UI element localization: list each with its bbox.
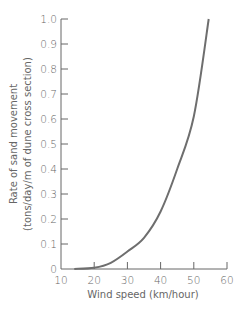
x-tick-label: 50 (187, 274, 200, 286)
y-tick-label: 0.2 (40, 213, 57, 225)
x-tick-label: 20 (88, 274, 101, 286)
sand-movement-curve (74, 19, 208, 269)
y-tick-label: 0.6 (40, 113, 57, 125)
x-axis-ticks: 102030405060 (54, 262, 233, 286)
y-tick-label: 0.3 (40, 188, 57, 200)
x-tick-label: 60 (220, 274, 233, 286)
y-axis-ticks: 00.10.20.30.40.50.60.70.80.91.0 (40, 13, 68, 275)
x-axis-title: Wind speed (km/hour) (87, 289, 198, 300)
y-tick-label: 0.8 (40, 63, 57, 75)
x-tick-label: 30 (121, 274, 134, 286)
y-tick-label: 0.5 (40, 138, 57, 150)
y-tick-label: 0.4 (40, 163, 57, 175)
y-tick-label: 0.9 (40, 38, 57, 50)
y-axis-title-line1: Rate of sand movement (8, 84, 19, 204)
x-tick-label: 10 (54, 274, 67, 286)
y-tick-label: 0.7 (40, 88, 57, 100)
y-tick-label: 0.1 (40, 238, 57, 250)
x-tick-label: 40 (154, 274, 167, 286)
chart: 00.10.20.30.40.50.60.70.80.91.0 10203040… (0, 0, 245, 311)
y-axis-title-line2: (tons/day/m of dune cross section) (22, 57, 33, 231)
y-tick-label: 1.0 (40, 13, 57, 25)
